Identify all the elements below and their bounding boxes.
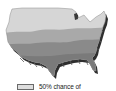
- legend-swatch: [17, 84, 34, 90]
- legend: 50% chance of: [17, 82, 81, 91]
- us-map: [0, 0, 116, 80]
- legend-label: 50% chance of: [39, 82, 81, 91]
